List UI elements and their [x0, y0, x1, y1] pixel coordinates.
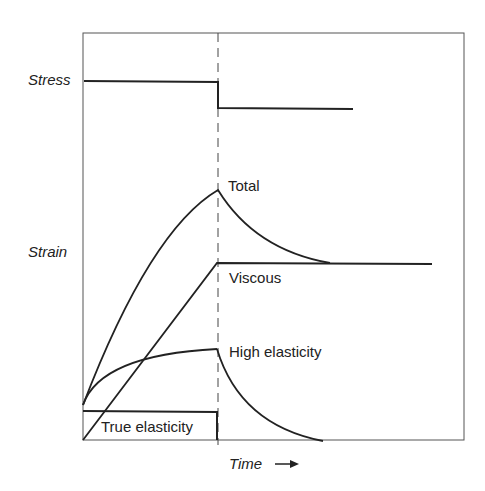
creep-diagram [0, 0, 485, 491]
stress-label: Stress [28, 71, 71, 88]
true-elasticity-label: True elasticity [101, 418, 193, 435]
strain-label: Strain [28, 243, 67, 260]
total-label: Total [228, 177, 260, 194]
time-arrow-icon [290, 460, 299, 468]
viscous-label: Viscous [229, 269, 281, 286]
time-axis-label: Time [229, 455, 262, 472]
total-strain-curve [83, 190, 330, 405]
high-elasticity-decay [217, 349, 323, 441]
stress-curve [84, 81, 353, 109]
high-elasticity-label: High elasticity [229, 343, 322, 360]
plot-frame [83, 33, 464, 440]
